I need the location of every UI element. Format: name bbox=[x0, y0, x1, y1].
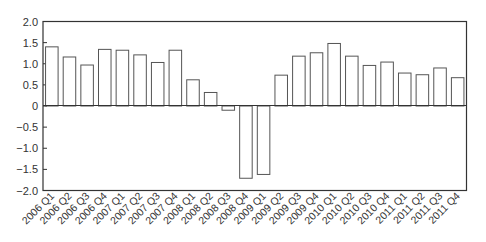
bar bbox=[363, 65, 376, 106]
y-tick-label: 0 bbox=[32, 100, 38, 112]
bar bbox=[275, 75, 288, 106]
y-tick-label: 2.0 bbox=[23, 16, 38, 28]
bar bbox=[116, 50, 129, 106]
bar bbox=[293, 56, 306, 106]
bar bbox=[257, 106, 270, 174]
bar bbox=[187, 80, 200, 106]
bar bbox=[169, 50, 182, 106]
y-tick-label: 1.5 bbox=[23, 37, 38, 49]
bars bbox=[46, 43, 464, 178]
bar bbox=[434, 68, 447, 106]
y-tick-label: −2.0 bbox=[16, 185, 38, 197]
bar bbox=[99, 49, 112, 106]
y-axis-ticks: 2.01.51.00.50−0.5−1.0−1.5−2.0 bbox=[16, 16, 47, 197]
bar bbox=[151, 62, 164, 106]
bar bbox=[310, 53, 323, 106]
x-axis-labels: 2006 Q12006 Q22006 Q32006 Q42007 Q12007 … bbox=[19, 189, 462, 226]
y-tick-label: −1.5 bbox=[16, 163, 38, 175]
bar bbox=[381, 62, 394, 106]
y-tick-label: −1.0 bbox=[16, 142, 38, 154]
bar bbox=[328, 43, 341, 106]
y-tick-label: −0.5 bbox=[16, 121, 38, 133]
bar bbox=[240, 106, 253, 178]
bar bbox=[46, 47, 59, 106]
bar bbox=[63, 57, 76, 106]
bar bbox=[346, 56, 359, 106]
bar bbox=[451, 78, 464, 106]
bar bbox=[398, 73, 411, 106]
y-tick-label: 1.0 bbox=[23, 58, 38, 70]
bar bbox=[416, 75, 429, 106]
y-tick-label: 0.5 bbox=[23, 79, 38, 91]
bar bbox=[222, 106, 235, 110]
bar-chart: 2.01.51.00.50−0.5−1.0−1.5−2.0 2006 Q1200… bbox=[0, 0, 486, 242]
bar bbox=[134, 55, 147, 106]
bar bbox=[204, 92, 217, 106]
bar bbox=[81, 65, 94, 106]
